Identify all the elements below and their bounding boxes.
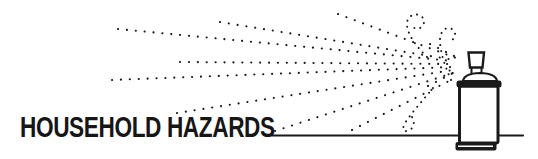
- spray-swirl: [407, 15, 427, 57]
- spray-ray: [338, 14, 456, 58]
- can-shoulder-dome: [463, 73, 497, 81]
- spray-ray: [118, 29, 453, 61]
- can-top-rim: [457, 81, 502, 88]
- spray-ray: [112, 67, 452, 80]
- spray-swirl: [403, 88, 433, 131]
- page-title: HOUSEHOLD HAZARDS: [20, 113, 275, 142]
- can-nozzle-cap: [469, 53, 485, 68]
- can-body: [460, 86, 499, 143]
- spray-ray: [180, 62, 452, 64]
- spray-ray: [430, 44, 456, 57]
- spray-ray: [352, 78, 455, 130]
- spray-ray: [275, 73, 453, 131]
- page: HOUSEHOLD HAZARDS: [0, 0, 538, 159]
